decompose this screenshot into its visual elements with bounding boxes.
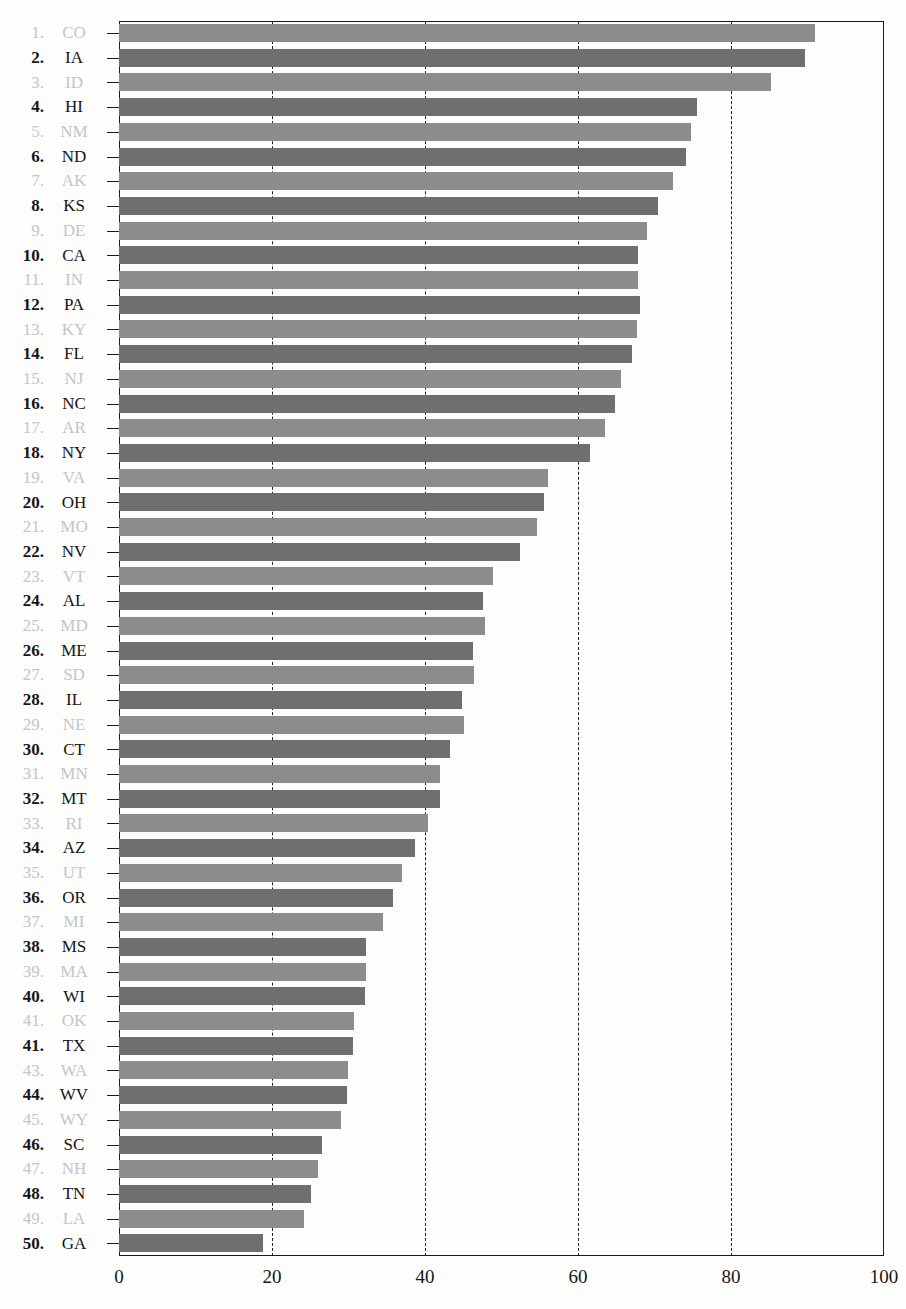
bar-NE[interactable] [119,716,464,734]
bar-NJ[interactable] [119,370,621,388]
bar-PA[interactable] [119,296,640,314]
bar-row[interactable] [119,639,884,664]
bar-row[interactable] [119,811,884,836]
bar-row[interactable] [119,1058,884,1083]
bar-MI[interactable] [119,913,383,931]
bar-row[interactable] [119,1231,884,1256]
bar-row[interactable] [119,688,884,713]
bar-OH[interactable] [119,493,544,511]
bar-row[interactable] [119,70,884,95]
bar-AL[interactable] [119,592,483,610]
bar-WY[interactable] [119,1111,341,1129]
bar-WI[interactable] [119,987,365,1005]
bar-row[interactable] [119,713,884,738]
bar-row[interactable] [119,1182,884,1207]
bar-ID[interactable] [119,73,771,91]
bar-row[interactable] [119,935,884,960]
bar-row[interactable] [119,342,884,367]
bar-row[interactable] [119,1083,884,1108]
bar-MT[interactable] [119,790,440,808]
bar-WV[interactable] [119,1086,347,1104]
bar-NC[interactable] [119,395,615,413]
bar-MD[interactable] [119,617,485,635]
bar-OR[interactable] [119,889,393,907]
bar-VA[interactable] [119,469,548,487]
bar-MS[interactable] [119,938,366,956]
bar-row[interactable] [119,515,884,540]
bar-ME[interactable] [119,642,473,660]
bar-MA[interactable] [119,963,366,981]
bar-CO[interactable] [119,24,815,42]
bar-LA[interactable] [119,1210,304,1228]
bar-row[interactable] [119,317,884,342]
bar-SC[interactable] [119,1136,322,1154]
bar-row[interactable] [119,984,884,1009]
bar-row[interactable] [119,564,884,589]
bar-SD[interactable] [119,666,474,684]
bar-row[interactable] [119,145,884,170]
bar-IA[interactable] [119,49,805,67]
bar-row[interactable] [119,441,884,466]
bar-row[interactable] [119,466,884,491]
bar-HI[interactable] [119,98,697,116]
bar-row[interactable] [119,169,884,194]
bar-row[interactable] [119,737,884,762]
bar-row[interactable] [119,886,884,911]
bar-row[interactable] [119,1009,884,1034]
bar-row[interactable] [119,1207,884,1232]
bar-row[interactable] [119,46,884,71]
bar-row[interactable] [119,762,884,787]
bar-row[interactable] [119,663,884,688]
bar-KS[interactable] [119,197,658,215]
bar-row[interactable] [119,120,884,145]
bar-CA[interactable] [119,246,638,264]
bar-row[interactable] [119,540,884,565]
bar-CT[interactable] [119,740,450,758]
bar-row[interactable] [119,1034,884,1059]
bar-FL[interactable] [119,345,632,363]
bar-row[interactable] [119,490,884,515]
bar-IN[interactable] [119,271,638,289]
bar-row[interactable] [119,861,884,886]
bar-AR[interactable] [119,419,605,437]
bar-KY[interactable] [119,320,637,338]
bar-row[interactable] [119,614,884,639]
bar-UT[interactable] [119,864,402,882]
bar-IL[interactable] [119,691,462,709]
bar-row[interactable] [119,1108,884,1133]
bar-NY[interactable] [119,444,590,462]
bar-OK[interactable] [119,1012,354,1030]
bar-row[interactable] [119,910,884,935]
bar-row[interactable] [119,95,884,120]
bar-row[interactable] [119,836,884,861]
bar-row[interactable] [119,787,884,812]
bar-row[interactable] [119,589,884,614]
bar-RI[interactable] [119,814,428,832]
bar-WA[interactable] [119,1061,348,1079]
bar-NM[interactable] [119,123,691,141]
bar-row[interactable] [119,219,884,244]
bar-AZ[interactable] [119,839,415,857]
bar-DE[interactable] [119,222,647,240]
bar-ND[interactable] [119,148,686,166]
bar-row[interactable] [119,194,884,219]
bar-row[interactable] [119,392,884,417]
bar-VT[interactable] [119,567,493,585]
bar-row[interactable] [119,268,884,293]
bar-row[interactable] [119,293,884,318]
bar-row[interactable] [119,416,884,441]
bar-GA[interactable] [119,1234,263,1252]
bar-row[interactable] [119,21,884,46]
bar-TN[interactable] [119,1185,311,1203]
bar-row[interactable] [119,960,884,985]
bar-MN[interactable] [119,765,440,783]
bar-AK[interactable] [119,172,673,190]
bar-NH[interactable] [119,1160,318,1178]
bar-NV[interactable] [119,543,520,561]
bar-row[interactable] [119,243,884,268]
bar-row[interactable] [119,1157,884,1182]
bar-MO[interactable] [119,518,537,536]
bar-row[interactable] [119,1133,884,1158]
bar-row[interactable] [119,367,884,392]
bar-TX[interactable] [119,1037,353,1055]
